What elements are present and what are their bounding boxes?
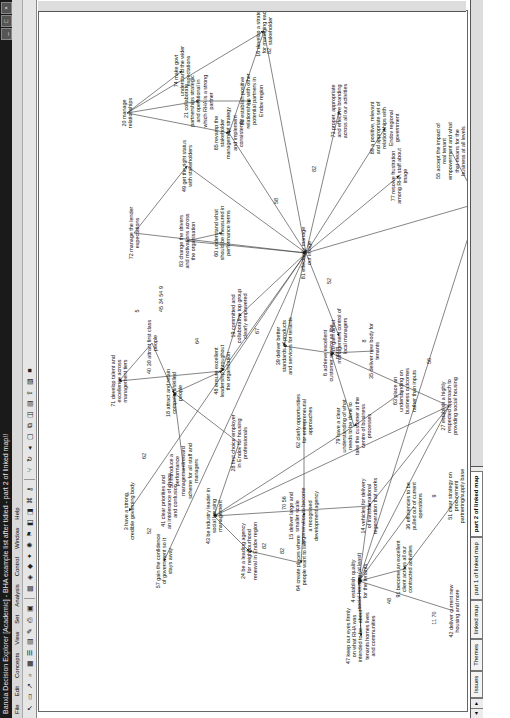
concept-reference-tag[interactable]: 82	[279, 548, 285, 554]
tab-scroll-right-icon[interactable]: ▸	[471, 698, 483, 708]
minimize-button[interactable]: _	[1, 28, 12, 40]
table-icon[interactable]: ▥	[25, 584, 34, 593]
tab-part-1[interactable]: part 1 of linked map	[471, 537, 483, 600]
concept-reference-tag[interactable]: 52	[146, 528, 152, 534]
maximize-button[interactable]: □	[1, 15, 12, 27]
concept-link[interactable]	[187, 241, 306, 253]
concept-43[interactable]: 43 be industry leader in social housing …	[205, 487, 224, 545]
concept-reference-tag[interactable]: 82	[311, 166, 317, 172]
tab-issues[interactable]: Issues	[471, 671, 483, 698]
concept-83[interactable]: 83 change the drivers and motivations ac…	[178, 212, 197, 270]
concept-link[interactable]	[187, 166, 306, 253]
picture-icon[interactable]: ▨	[25, 377, 34, 386]
cluster-icon[interactable]: ✺	[25, 540, 34, 549]
concept-73[interactable]: 73 proper, appropriate and effective bra…	[330, 82, 349, 140]
branch-icon[interactable]: ⑂	[25, 465, 34, 474]
window-icon[interactable]: ⧉	[25, 421, 34, 430]
concept-reference-tag[interactable]: 48	[386, 598, 392, 604]
menu-set[interactable]: Set	[12, 615, 22, 624]
concept-60[interactable]: 60 understand what should be measured in…	[213, 204, 232, 262]
concept-reference-tag[interactable]: 70 56	[281, 496, 287, 510]
concept-30[interactable]: 30 attract first class people	[146, 314, 158, 372]
concept-71[interactable]: 71 develop talent and excellence across …	[110, 352, 129, 410]
link-icon[interactable]: ↗	[25, 681, 34, 690]
concept-41[interactable]: 41 clear priorities and an intolerance o…	[160, 472, 179, 530]
concept-reference-tag[interactable]: 64	[194, 338, 200, 344]
concept-39[interactable]: 39 deliver better standards of products …	[275, 317, 294, 375]
concept-47[interactable]: 47 keep our eyes firmly on what RHA was …	[345, 607, 376, 665]
tag-icon[interactable]: ⌘	[25, 496, 34, 505]
list-icon[interactable]: ☰	[25, 648, 34, 657]
concept-link[interactable]	[239, 253, 306, 316]
concept-reference-tag[interactable]: 8	[361, 339, 367, 342]
menu-analysis[interactable]: Analysis	[12, 584, 22, 606]
concept-link[interactable]	[306, 203, 467, 253]
concept-72[interactable]: 72 manage the lender expectations	[128, 204, 140, 262]
concept-reference-tag[interactable]: 5	[134, 309, 140, 312]
concept-28[interactable]: 28 first choice employer in Endov for ho…	[230, 414, 249, 472]
concept-55[interactable]: 55 accept the impact of real tenant empo…	[435, 122, 466, 180]
layout-icon[interactable]: ▤	[25, 399, 34, 408]
concept-reference-tag[interactable]: 9	[431, 494, 437, 497]
tab-scroll-left-icon[interactable]: ◂	[471, 708, 483, 718]
menu-file[interactable]: File	[12, 704, 22, 714]
vertical-scrollbar[interactable]	[38, 1, 466, 12]
stop-icon[interactable]: ■	[25, 366, 34, 375]
concept-79[interactable]: 79 have a clear understanding of what ne…	[335, 397, 372, 455]
pointer-icon[interactable]: ↖	[25, 703, 34, 712]
export-icon[interactable]: ⇪	[25, 388, 34, 397]
concept-81[interactable]: 81 effectively manage our image	[300, 224, 312, 282]
concept-74[interactable]: 74 make govt understand the wider expect…	[173, 42, 192, 100]
tab-themes[interactable]: Themes	[471, 639, 483, 671]
menu-concepts[interactable]: Concepts	[12, 653, 22, 678]
concept-48[interactable]: 48 ensure excellent leadership throughou…	[213, 342, 232, 400]
concept-link[interactable]	[306, 176, 399, 253]
concept-reference-tag[interactable]: 11 70	[431, 611, 437, 624]
concept-reference-tag[interactable]: 58	[273, 198, 279, 204]
explore-icon[interactable]: ◈	[25, 573, 34, 582]
concept-27[interactable]: 27 establish a highly respected approach…	[440, 377, 459, 435]
concept-51[interactable]: 51 clear strategy on procurement partner…	[447, 467, 468, 525]
grid-icon[interactable]: ▦	[25, 659, 34, 668]
menu-help[interactable]: Help	[12, 507, 22, 519]
concept-reference-tag[interactable]: 56	[426, 358, 432, 364]
concept-4[interactable]: 4 establish quality social housing (at l…	[350, 552, 369, 610]
concept-63[interactable]: 63 place an understanding on business ou…	[392, 362, 417, 420]
concept-reference-tag[interactable]: 67	[254, 328, 260, 334]
set-icon[interactable]: ◧	[25, 518, 34, 527]
group-icon[interactable]: ◫	[25, 410, 34, 419]
concept-reference-tag[interactable]: 40	[146, 368, 152, 374]
preview-icon[interactable]: ▣	[25, 604, 34, 613]
concept-reference-tag[interactable]: 62	[141, 453, 147, 459]
hieset-icon[interactable]: ◨	[25, 507, 34, 516]
concept-62[interactable]: 62 clarify opportunities for entrepreneu…	[295, 392, 314, 450]
concept-89[interactable]: 89 a positive, relevant and appropriate …	[369, 99, 400, 157]
central-icon[interactable]: ✦	[25, 551, 34, 560]
map-icon[interactable]: ▤	[25, 637, 34, 646]
concept-link[interactable]	[264, 31, 306, 253]
concept-reference-tag[interactable]: 45 34 54 9	[158, 286, 164, 312]
print-icon[interactable]: ⎙	[25, 615, 34, 624]
concept-85[interactable]: 85 revamp the stakeholder management str…	[213, 104, 244, 162]
map-canvas[interactable]: 20 manage relationships21 collaborate pa…	[38, 10, 468, 712]
loop-icon[interactable]: ↻	[25, 454, 34, 463]
back-icon[interactable]: ◂	[25, 443, 34, 452]
potent-icon[interactable]: ⚑	[25, 529, 34, 538]
zoom-icon[interactable]: ⌕	[25, 670, 34, 679]
concept-3[interactable]: 3 have a strong, credible governing body	[123, 482, 135, 540]
domain-icon[interactable]: ◆	[25, 562, 34, 571]
map-view-icon[interactable]: ▢	[25, 432, 34, 441]
tab-part-2[interactable]: part 2 of linked map	[471, 471, 483, 538]
menu-edit[interactable]: Edit	[12, 686, 22, 696]
concept-reference-tag[interactable]: 82	[261, 543, 267, 549]
menu-window[interactable]: Window	[12, 528, 22, 549]
concept-49[interactable]: 49 get the right status with stakeholder…	[181, 137, 193, 195]
menu-control[interactable]: Control	[12, 557, 22, 576]
tab-linked-map[interactable]: linked map	[471, 600, 483, 639]
concept-6[interactable]: 6 achieve excellent customer service as …	[322, 324, 341, 382]
concept-64[interactable]: 64 create places where people want to li…	[295, 534, 307, 592]
concept-20[interactable]: 20 manage relationships	[121, 84, 133, 142]
close-button[interactable]: ×	[1, 2, 12, 14]
menu-view[interactable]: View	[12, 632, 22, 645]
concept-57[interactable]: 57 gain the confidence of government so …	[155, 532, 174, 590]
